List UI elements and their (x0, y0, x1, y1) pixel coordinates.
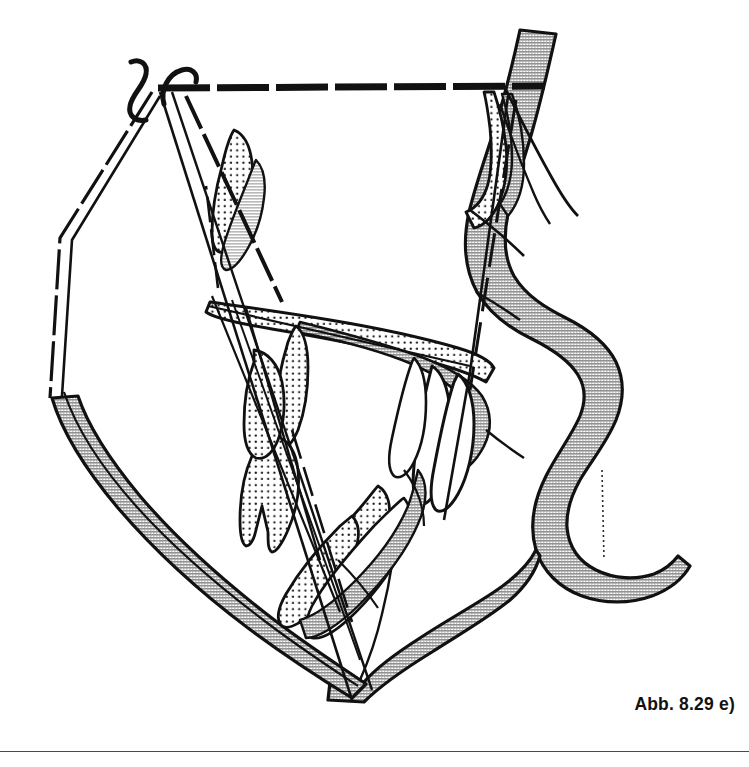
construction-line-c (186, 96, 282, 302)
occlusal-plane-line (208, 306, 470, 366)
construction-line-b (172, 92, 372, 690)
upper-lip-line (486, 430, 524, 458)
profile-dotted-reference (602, 470, 604, 560)
crossing-line-a (212, 296, 340, 612)
figure-root: Abb. 8.29 e) (0, 0, 749, 767)
sella-nasion-line[interactable] (158, 86, 545, 88)
figure-caption: Abb. 8.29 e) (634, 694, 735, 715)
cephalometric-tracing-svg (0, 0, 749, 767)
bottom-divider (0, 751, 749, 752)
left-outline-solid (62, 96, 160, 396)
